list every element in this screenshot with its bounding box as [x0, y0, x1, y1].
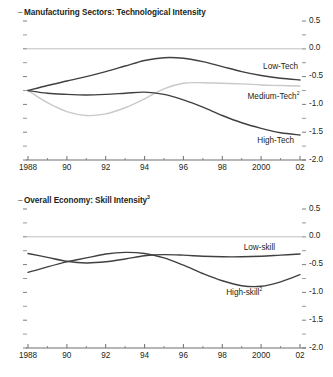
- x-axis-label: 98: [202, 351, 242, 360]
- series-label-high-skill: High-skill2: [226, 288, 262, 297]
- x-axis-label: 90: [47, 163, 87, 172]
- y-axis-label: -1.0: [309, 99, 323, 108]
- chart-panel-manufacturing: –Manufacturing Sectors: Technological In…: [0, 0, 333, 188]
- series-label-footnote: 2: [259, 286, 262, 292]
- y-axis-label: -0.5: [309, 259, 323, 268]
- x-axis-label: 1988: [8, 163, 48, 172]
- series-line-high-skill: [28, 252, 300, 286]
- x-axis-label: 2000: [241, 163, 281, 172]
- figure-root: –Manufacturing Sectors: Technological In…: [0, 0, 333, 377]
- y-axis-label: -1.5: [309, 315, 323, 324]
- y-axis-label: -0.5: [309, 71, 323, 80]
- x-axis-label: 94: [125, 351, 165, 360]
- series-label-footnote: 2: [297, 90, 300, 96]
- series-label-low-tech: Low-Tech: [263, 62, 298, 71]
- x-axis-label: 1988: [8, 351, 48, 360]
- y-axis-label: 0.0: [309, 231, 320, 240]
- x-axis-label: 2000: [241, 351, 281, 360]
- series-label-medium-tech: Medium-Tech2: [248, 92, 300, 101]
- x-axis-label: 02: [280, 351, 320, 360]
- y-axis-label: 0.5: [309, 204, 320, 213]
- x-axis-label: 02: [280, 163, 320, 172]
- x-axis-label: 98: [202, 163, 242, 172]
- x-axis-label: 90: [47, 351, 87, 360]
- y-axis-label: -1.5: [309, 127, 323, 136]
- x-axis-label: 94: [125, 163, 165, 172]
- x-axis-label: 92: [86, 163, 126, 172]
- y-axis-label: 0.0: [309, 43, 320, 52]
- y-axis-label: -1.0: [309, 287, 323, 296]
- x-axis-label: 96: [163, 163, 203, 172]
- series-label-high-tech: High-Tech: [257, 136, 294, 145]
- x-axis-label: 92: [86, 351, 126, 360]
- series-line-low-tech: [28, 58, 300, 91]
- plot-area-overall-economy: [0, 188, 333, 377]
- x-axis-label: 96: [163, 351, 203, 360]
- y-axis-label: 0.5: [309, 16, 320, 25]
- series-label-low-skill: Low-skill: [244, 243, 275, 252]
- chart-panel-overall-economy: –Overall Economy: Skill Intensity3 0.50.…: [0, 188, 333, 377]
